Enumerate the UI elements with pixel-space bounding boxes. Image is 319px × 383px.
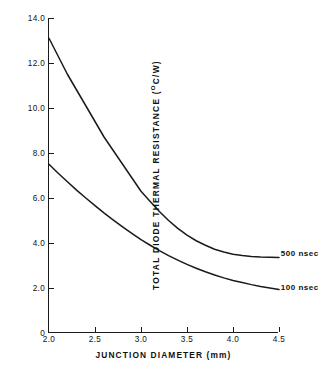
y-tick xyxy=(49,18,54,19)
y-tick xyxy=(49,63,54,64)
x-tick xyxy=(187,327,188,332)
x-tick-label: 3.0 xyxy=(135,335,147,344)
y-tick-label: 12.0 xyxy=(28,59,45,68)
y-tick xyxy=(49,288,54,289)
y-tick-label: 2.0 xyxy=(33,284,45,293)
x-tick xyxy=(233,327,234,332)
x-tick xyxy=(141,327,142,332)
y-tick xyxy=(49,108,54,109)
curves-layer xyxy=(49,18,279,333)
series-annotation: 100 nsec xyxy=(281,282,319,291)
y-tick xyxy=(49,198,54,199)
y-tick-label: 10.0 xyxy=(28,104,45,113)
y-axis-title-text: TOTAL DIODE THERMAL RESISTANCE ( xyxy=(151,90,161,290)
x-tick-label: 3.5 xyxy=(181,335,193,344)
x-tick-label: 2.5 xyxy=(89,335,101,344)
series-annotation: 500 nsec xyxy=(281,249,319,258)
thermal-resistance-chart: 02.04.06.08.010.012.014.0 2.02.53.03.54.… xyxy=(0,0,319,383)
series-line-100-nsec xyxy=(49,164,279,289)
y-tick xyxy=(49,153,54,154)
y-axis-title: TOTAL DIODE THERMAL RESISTANCE (OC/W) xyxy=(150,60,161,290)
y-tick-label: 8.0 xyxy=(33,149,45,158)
y-tick xyxy=(49,243,54,244)
degree-symbol: O xyxy=(150,84,156,90)
x-tick-label: 4.0 xyxy=(227,335,239,344)
series-line-500-nsec xyxy=(49,38,279,257)
x-tick-label: 2.0 xyxy=(43,335,55,344)
y-tick-label: 14.0 xyxy=(28,14,45,23)
y-tick-label: 6.0 xyxy=(33,194,45,203)
x-tick xyxy=(95,327,96,332)
y-tick-label: 4.0 xyxy=(33,239,45,248)
x-tick xyxy=(279,327,280,332)
x-tick-label: 4.5 xyxy=(273,335,285,344)
x-axis-title: JUNCTION DIAMETER (mm) xyxy=(96,350,232,360)
y-axis-unit-text: C/W) xyxy=(151,60,161,84)
plot-area: 02.04.06.08.010.012.014.0 2.02.53.03.54.… xyxy=(48,18,278,333)
